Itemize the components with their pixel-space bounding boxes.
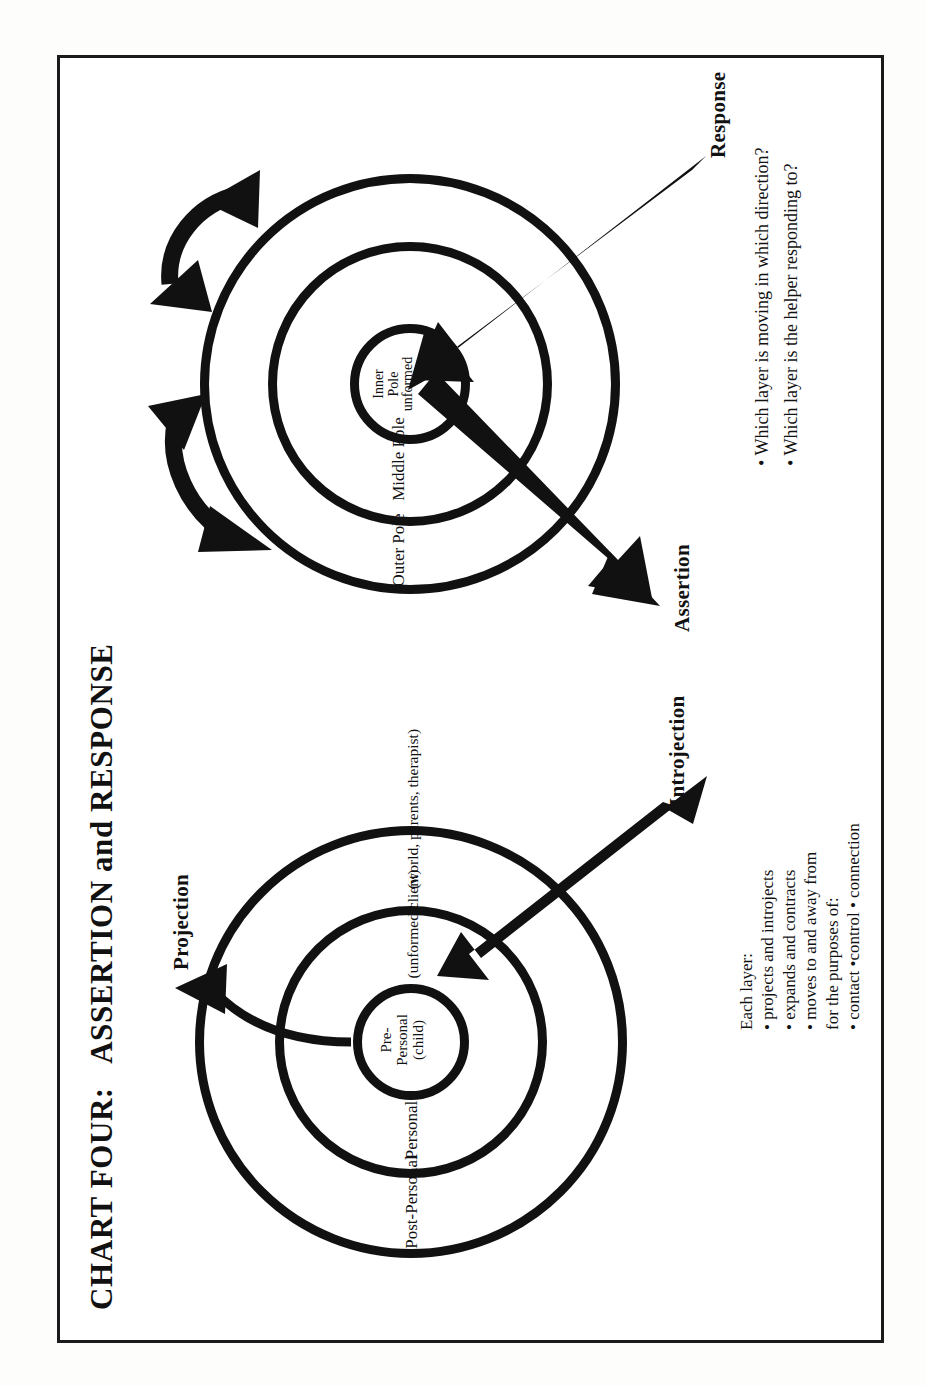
notes-heading: Each layer: [736,670,757,1030]
question-item-0: • Which layer is moving in which directi… [748,66,777,466]
left-diagram-panel: Post-Personal Personal Pre- Personal (ch… [155,756,715,1276]
label-outer-pole: Outer Pole [390,500,408,600]
notes-bullet-1: • expands and contracts [779,670,800,1030]
notes-bullet-0: • projects and introjects [757,670,778,1030]
notes-purpose-heading: for the purposes of: [822,670,843,1030]
label-pre-personal: Pre- Personal (child) [379,994,426,1086]
left-panel-arrows [155,756,715,1276]
rotated-chart-content: CHART FOUR: ASSERTION and RESPONSE [60,58,887,1346]
each-layer-notes: Each layer: • projects and introjects • … [736,670,864,1030]
label-introjection: Introjection [665,695,690,806]
question-item-1: • Which layer is the helper responding t… [777,66,806,466]
scanned-page: CHART FOUR: ASSERTION and RESPONSE [0,0,925,1386]
label-projection: Projection [169,874,194,970]
notes-bullet-2: • moves to and away from [800,670,821,1030]
right-diagram-panel: Outer Pole Middle Pole Inner Pole unform… [140,96,740,656]
right-panel-arrows [140,96,740,656]
page-title: CHART FOUR: ASSERTION and RESPONSE [84,643,120,1310]
label-assertion: Assertion [670,544,695,632]
question-notes: • Which layer is moving in which directi… [748,66,806,466]
label-inner-pole: Inner Pole unformed [372,336,416,432]
label-world-parents-therapist: (world, parents, therapist) [405,694,421,924]
label-personal: Personal [403,1090,421,1170]
chart-frame-border: CHART FOUR: ASSERTION and RESPONSE [57,55,884,1343]
label-response: Response [706,72,731,158]
notes-purpose-items: • contact •control • connection [843,670,864,1030]
